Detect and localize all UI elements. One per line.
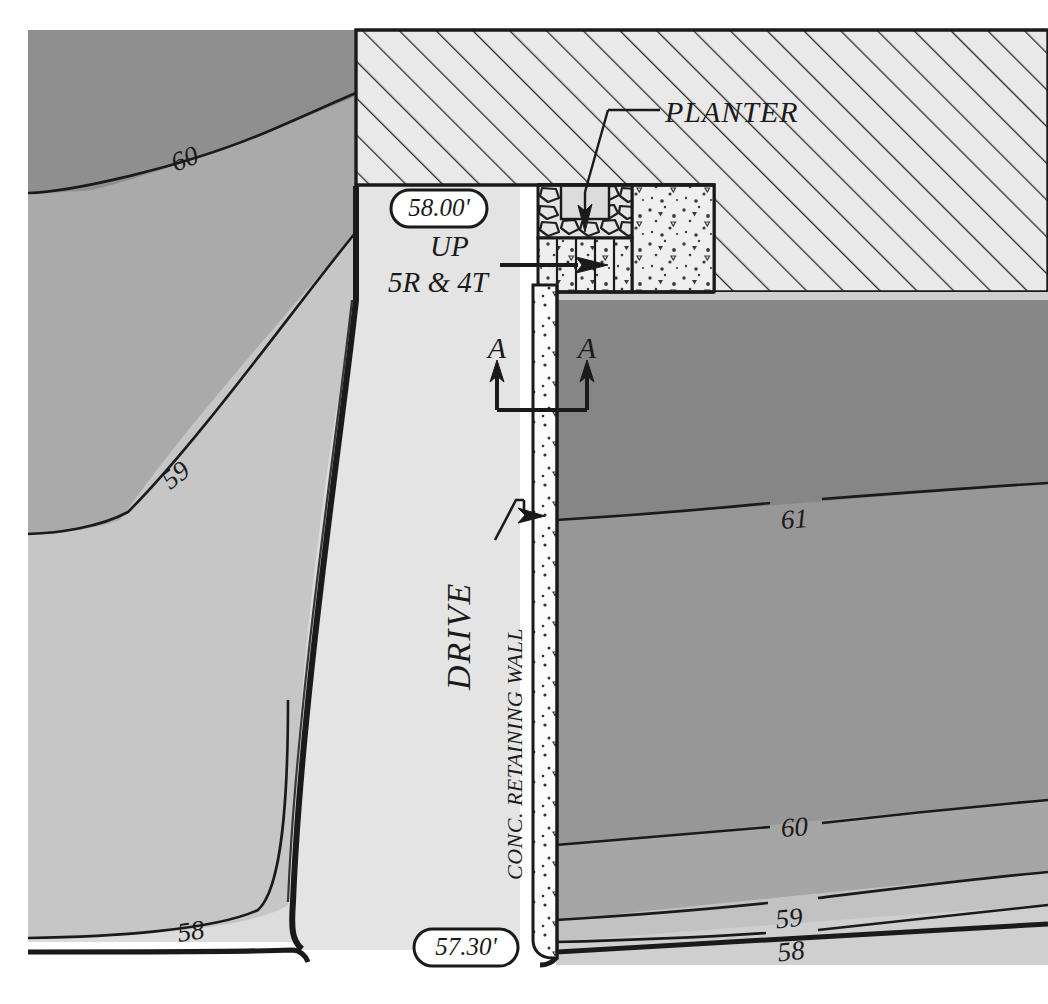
concrete-pad: [632, 185, 714, 292]
spot-elevation-5730-text: 57.30': [435, 933, 497, 960]
stair-note-label: 5R & 4T: [388, 266, 490, 298]
entry-detail: [538, 185, 714, 292]
contour-label-61-right: 61: [780, 503, 809, 535]
spot-elevation-58: 58.00': [391, 190, 487, 227]
planter-label: PLANTER: [664, 95, 799, 128]
up-label: UP: [430, 230, 469, 262]
site-boundary-lower-left: [28, 950, 308, 962]
site-plan-drawing: 58.00' 57.30' PLANTER UP 5R & 4T DRIVE C…: [0, 0, 1048, 1004]
spot-elevation-5730: 57.30': [414, 929, 518, 966]
right-grading-area: [540, 292, 1048, 965]
contour-label-60-right: 60: [780, 811, 810, 843]
drive-label: DRIVE: [440, 582, 477, 691]
spot-elevation-58-text: 58.00': [408, 194, 470, 221]
contour-label-59-right: 59: [774, 902, 804, 935]
retaining-wall-label: CONC. RETAINING WALL: [502, 628, 527, 880]
section-marker-a-left: A: [486, 331, 507, 364]
section-marker-a-right: A: [576, 331, 597, 364]
contour-label-58-left: 58: [175, 914, 206, 948]
drawing-sheet: 58.00' 57.30' PLANTER UP 5R & 4T DRIVE C…: [0, 0, 1048, 1004]
concrete-retaining-wall: [533, 285, 557, 958]
contour-label-58-right: 58: [776, 935, 806, 968]
